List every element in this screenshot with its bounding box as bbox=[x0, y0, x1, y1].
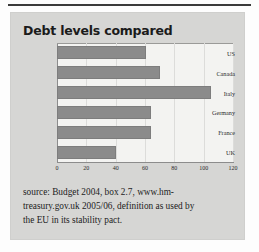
category-axis bbox=[19, 43, 56, 162]
x-tick-100: 100 bbox=[199, 165, 208, 171]
bar-canada bbox=[57, 66, 160, 79]
gridline-120 bbox=[233, 43, 234, 162]
category-label-us: US bbox=[227, 49, 235, 56]
category-label-italy: Italy bbox=[224, 89, 235, 96]
source-line-1: source: Budget 2004, box 2.7, www.hm- bbox=[23, 185, 237, 199]
x-tick-0: 0 bbox=[56, 165, 59, 171]
category-label-uk: UK bbox=[226, 149, 235, 156]
page-top-rule bbox=[8, 4, 251, 6]
x-tick-80: 80 bbox=[171, 165, 177, 171]
source-line-2: treasury.gov.uk 2005/06, definition as u… bbox=[23, 199, 237, 213]
gridline-80 bbox=[174, 43, 175, 162]
category-label-france: France bbox=[218, 129, 235, 136]
x-tick-120: 120 bbox=[229, 165, 238, 171]
category-label-canada: Canada bbox=[216, 69, 235, 76]
source-note: source: Budget 2004, box 2.7, www.hm- tr… bbox=[23, 185, 237, 227]
category-label-germany: Germany bbox=[212, 109, 235, 116]
gridline-40 bbox=[116, 43, 117, 162]
bar-uk bbox=[57, 146, 116, 159]
bar-france bbox=[57, 126, 151, 139]
figure-page: Debt levels compared USCanadaItalyGerman… bbox=[0, 0, 259, 252]
bar-us bbox=[57, 46, 146, 59]
gridline-100 bbox=[204, 43, 205, 162]
gridline-60 bbox=[145, 43, 146, 162]
x-tick-40: 40 bbox=[113, 165, 119, 171]
source-line-3: the EU in its stability pact. bbox=[23, 213, 237, 227]
x-tick-20: 20 bbox=[83, 165, 89, 171]
x-tick-60: 60 bbox=[142, 165, 148, 171]
figure-panel: Debt levels compared USCanadaItalyGerman… bbox=[10, 12, 245, 240]
bar-germany bbox=[57, 106, 151, 119]
bar-chart: USCanadaItalyGermanyFranceUK 02040608010… bbox=[19, 43, 238, 175]
chart-title: Debt levels compared bbox=[23, 23, 173, 38]
bar-italy bbox=[57, 86, 211, 99]
gridline-20 bbox=[86, 43, 87, 162]
